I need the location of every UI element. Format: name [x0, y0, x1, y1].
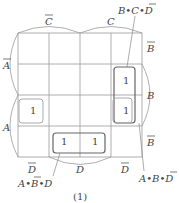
- expr-a-bbar-d: A•B•D: [17, 178, 52, 189]
- expr-b-c-dbar: B•C•D: [117, 5, 153, 16]
- cell-r3-c4: 1: [123, 105, 129, 116]
- leader-abd: [139, 123, 144, 171]
- expr-a-b-dbar: A•B•D: [138, 173, 173, 184]
- label-c-bar: C: [45, 16, 53, 27]
- label-d: D: [75, 164, 84, 175]
- label-a: A: [2, 122, 10, 133]
- label-b-bar-bottom: B: [146, 137, 154, 148]
- label-d-bar-left: D: [27, 164, 36, 175]
- cell-r4-c2: 1: [61, 136, 67, 147]
- cell-r4-c3: 1: [92, 136, 98, 147]
- leader-abbard: [53, 153, 60, 176]
- map-grid: [18, 33, 142, 157]
- top-arcs: [18, 27, 142, 34]
- karnaugh-map: C C A A B B B D D D 1 1 1 1 1 B•C•D A•B•…: [0, 0, 179, 203]
- label-b-bar-top: B: [146, 43, 154, 54]
- cell-r2-c4: 1: [123, 75, 129, 86]
- leader-bcd: [127, 16, 135, 67]
- label-c: C: [107, 16, 115, 27]
- label-d-bar-right: D: [120, 164, 129, 175]
- label-a-bar: A: [2, 60, 10, 71]
- cell-r3-c1: 1: [30, 105, 36, 116]
- label-b: B: [146, 90, 154, 101]
- figure-caption: (1): [73, 191, 87, 202]
- left-arcs: [10, 33, 18, 157]
